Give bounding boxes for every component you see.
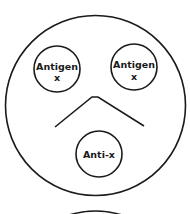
precipitin-line-identity: [55, 97, 144, 127]
well-bottom-antibody: Anti-x: [76, 131, 122, 177]
next-plate-outline-partial: [6, 211, 186, 214]
immunodiffusion-diagram: Antigen x Antigen x Anti-x: [0, 0, 190, 214]
well-right-label-line1: Antigen: [113, 59, 155, 70]
well-left-label-line1: Antigen: [36, 61, 78, 72]
well-bottom-label: Anti-x: [83, 149, 115, 160]
agar-plate-outline: [6, 16, 186, 196]
well-right-antigen: Antigen x: [111, 44, 157, 90]
well-right-label-line2: x: [131, 71, 137, 82]
well-left-label-line2: x: [54, 72, 60, 83]
well-left-antigen: Antigen x: [34, 46, 80, 92]
